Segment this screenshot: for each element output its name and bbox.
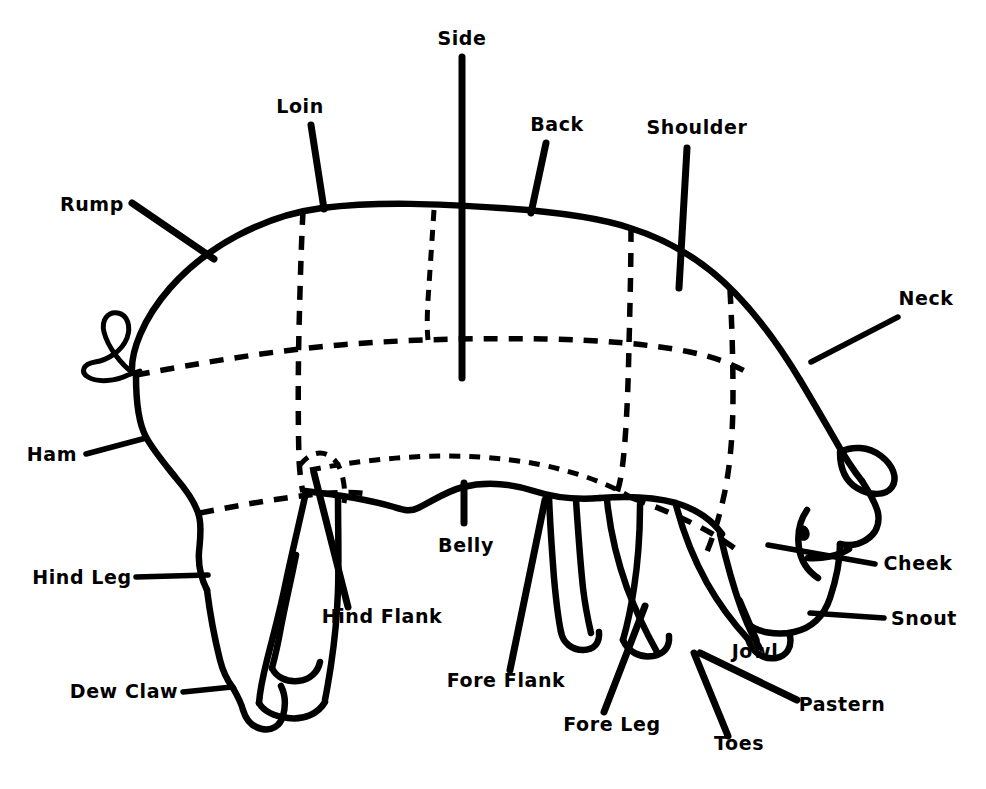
label-hind-leg: Hind Leg	[32, 566, 132, 588]
label-text-group: Side Loin Back Shoulder Rump Neck Ham Be…	[27, 27, 957, 754]
leader-shoulder	[679, 148, 687, 288]
pig-parts-diagram: Side Loin Back Shoulder Rump Neck Ham Be…	[0, 0, 986, 789]
fore-leg-near-front-path	[549, 496, 561, 632]
hind-hoof-far-path	[272, 662, 320, 681]
label-toes: Toes	[714, 732, 764, 754]
label-pastern: Pastern	[799, 693, 886, 715]
neck-jowl-vertical-cutline	[706, 290, 733, 554]
label-back: Back	[530, 113, 584, 135]
upper-horizontal-cutline	[136, 339, 752, 375]
leader-rump	[132, 203, 214, 259]
label-snout: Snout	[891, 607, 957, 629]
label-neck: Neck	[898, 287, 953, 309]
fore-leg-near-back-path	[576, 500, 591, 633]
shoulder-rear-vertical-cutline	[614, 228, 631, 501]
pig-diagram-canvas: Side Loin Back Shoulder Rump Neck Ham Be…	[0, 0, 986, 789]
leader-dew-claw	[183, 687, 232, 692]
leader-back	[531, 143, 546, 213]
snout-top-path	[862, 481, 879, 540]
ham-rear-outline-path	[136, 376, 207, 590]
leader-cheek	[768, 545, 875, 564]
hind-leg-far-path	[272, 555, 296, 668]
label-fore-flank: Fore Flank	[447, 669, 566, 691]
head-forehead-path	[800, 380, 862, 481]
pig-head-group	[748, 380, 895, 634]
hind-leg-rear-path	[207, 590, 233, 688]
leader-ham	[86, 438, 146, 454]
hind-leg-near-front-path	[259, 492, 306, 703]
belly-underline-path	[305, 484, 600, 510]
leader-hind-leg	[136, 575, 208, 577]
tail-path	[84, 313, 140, 381]
snout-disc-path	[840, 540, 866, 545]
label-hind-flank: Hind Flank	[322, 605, 443, 627]
leader-neck	[811, 317, 898, 362]
hind-hoof-near-path	[259, 702, 325, 718]
label-loin: Loin	[276, 95, 324, 117]
back-topline-path	[132, 204, 800, 380]
label-ham: Ham	[27, 443, 77, 465]
label-rump: Rump	[60, 193, 124, 215]
label-jowl: Jowl	[730, 640, 779, 662]
loin-back-short-cutline	[427, 210, 434, 340]
label-dew-claw: Dew Claw	[70, 680, 178, 702]
label-side: Side	[437, 27, 486, 49]
leader-fore-flank	[510, 500, 545, 670]
ham-loin-vertical-cutline	[298, 211, 303, 492]
label-shoulder: Shoulder	[647, 116, 748, 138]
label-belly: Belly	[438, 534, 494, 556]
label-cheek: Cheek	[884, 552, 953, 574]
cheek-curve-path	[798, 510, 818, 578]
leader-loin	[311, 125, 324, 209]
fore-leg-far-front-path	[607, 500, 657, 652]
label-fore-leg: Fore Leg	[563, 713, 661, 735]
